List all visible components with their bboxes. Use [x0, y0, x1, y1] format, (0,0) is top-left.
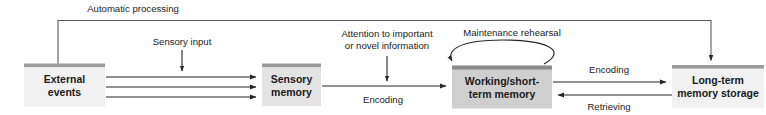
sensory-input-label: Sensory input [153, 36, 212, 47]
maintenance-rehearsal-label: Maintenance rehearsal [463, 27, 561, 38]
external-events-label-line1: External [44, 73, 86, 85]
node-external-events: External events [24, 64, 105, 108]
long-term-memory-cap [672, 65, 764, 69]
long-term-memory-label-line2: memory storage [677, 87, 759, 99]
automatic-processing-label: Automatic processing [87, 3, 179, 14]
node-long-term-memory: Long-term memory storage [672, 65, 764, 108]
retrieving-label: Retrieving [587, 101, 630, 112]
attention-label-line1: Attention to important [341, 28, 433, 39]
node-working-memory: Working/short- term memory [452, 66, 552, 109]
diagram-canvas: External events Sensory memory Working/s… [0, 0, 766, 115]
long-term-memory-label-line1: Long-term [692, 74, 744, 86]
node-sensory-memory: Sensory memory [262, 64, 321, 107]
external-events-label-line2: events [48, 86, 81, 98]
external-events-cap [24, 64, 105, 68]
working-memory-label-line1: Working/short- [465, 75, 540, 87]
sensory-memory-label-line1: Sensory [271, 73, 313, 85]
maintenance-rehearsal-connector [451, 40, 554, 64]
sensory-memory-label-line2: memory [271, 86, 312, 98]
working-memory-cap [452, 66, 552, 70]
encoding-sensory-to-working-label: Encoding [363, 94, 403, 105]
sensory-memory-cap [262, 64, 321, 68]
attention-label-line2: or novel information [345, 40, 429, 51]
encoding-working-to-longterm-label: Encoding [589, 64, 629, 75]
memory-model-diagram: External events Sensory memory Working/s… [0, 0, 766, 115]
working-memory-label-line2: term memory [469, 88, 536, 100]
